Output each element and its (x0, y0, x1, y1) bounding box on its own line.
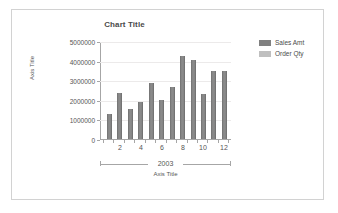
y-axis-tick-label: 4000000 (70, 59, 95, 66)
bar[interactable] (222, 71, 227, 139)
x-axis-tick-mark (228, 140, 229, 143)
y-axis-tick-labels: 500000040000003000000200000010000000 (42, 42, 95, 140)
y-axis-tick-label: 1000000 (70, 117, 95, 124)
x-axis-tick-label: 6 (155, 144, 169, 151)
y-axis-tick-mark (97, 42, 100, 43)
y-axis-tick-label: 2000000 (70, 98, 95, 105)
bar[interactable] (211, 71, 216, 139)
bar[interactable] (191, 60, 196, 139)
x-axis-tick-label: 4 (134, 144, 148, 151)
bar[interactable] (128, 109, 133, 139)
x-axis-tick-mark (155, 140, 156, 143)
chart-frame[interactable]: Chart Title Axis Title 50000004000000300… (11, 9, 324, 200)
x-axis-title: Axis Title (100, 171, 231, 177)
chart-title: Chart Title (12, 20, 237, 29)
legend-item-label: Sales Amt (275, 39, 304, 46)
bar[interactable] (149, 83, 154, 139)
y-axis-tick-label: 3000000 (70, 78, 95, 85)
x-axis-tick-label: 2 (113, 144, 127, 151)
bar[interactable] (138, 102, 143, 139)
legend-swatch-icon (259, 51, 271, 57)
bar[interactable] (107, 114, 112, 139)
legend-item[interactable]: Sales Amt (259, 38, 327, 47)
y-axis-title: Axis Title (29, 56, 35, 80)
x-axis-tick-labels: 24681012 (100, 144, 231, 154)
x-axis-tick-mark (103, 140, 104, 143)
y-axis-line (100, 42, 101, 140)
legend-item-label: Order Qty (275, 50, 304, 57)
x-axis-tick-mark (124, 140, 125, 143)
x-axis-tick-mark (134, 140, 135, 143)
chart-legend[interactable]: Sales AmtOrder Qty (259, 38, 327, 60)
gridline (100, 42, 231, 43)
y-axis-tick-mark (97, 81, 100, 82)
x-axis-tick-mark (218, 140, 219, 143)
gridline (100, 62, 231, 63)
x-axis-tick-mark (113, 140, 114, 143)
y-axis-tick-mark (97, 101, 100, 102)
x-axis-tick-label: 10 (196, 144, 210, 151)
x-axis-tick-label: 12 (217, 144, 231, 151)
x-axis-group-bracket: 2003 (100, 160, 231, 170)
bar[interactable] (117, 93, 122, 139)
bar[interactable] (159, 100, 164, 139)
legend-swatch-icon (259, 40, 271, 46)
x-axis-tick-mark (197, 140, 198, 143)
bar[interactable] (170, 87, 175, 139)
legend-item[interactable]: Order Qty (259, 49, 327, 58)
x-axis-tick-mark (145, 140, 146, 143)
x-axis-tick-label: 8 (176, 144, 190, 151)
x-axis-tick-mark (187, 140, 188, 143)
y-axis-tick-label: 5000000 (70, 39, 95, 46)
plot-area[interactable] (100, 42, 231, 140)
x-axis-tick-mark (176, 140, 177, 143)
bar[interactable] (180, 56, 185, 139)
y-axis-tick-mark (97, 62, 100, 63)
y-axis-tick-mark (97, 120, 100, 121)
x-axis-tick-mark (166, 140, 167, 143)
y-axis-tick-mark (97, 140, 100, 141)
y-axis-tick-label: 0 (91, 137, 95, 144)
bar[interactable] (201, 94, 206, 139)
x-axis-tick-mark (207, 140, 208, 143)
